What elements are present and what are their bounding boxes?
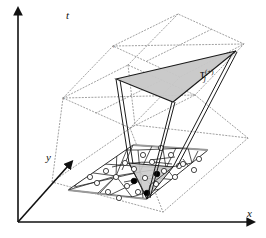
axis-label-t: t <box>66 10 69 21</box>
time-level-label-lower: t <box>63 96 64 101</box>
time-level-label-upper: t <box>113 44 114 49</box>
mesh-open-node <box>116 195 121 200</box>
mesh-open-node <box>161 168 166 173</box>
dotted-connector-5 <box>52 98 63 182</box>
tau-superscript: (+) <box>205 68 214 76</box>
mesh-open-node <box>172 174 177 179</box>
mesh-open-node <box>168 152 173 157</box>
dotted-connector-2 <box>128 14 178 65</box>
mesh-open-node <box>135 189 140 194</box>
mesh-open-node <box>105 189 110 194</box>
axis-y <box>18 166 68 222</box>
axis-label-y: y <box>46 152 51 163</box>
spacetime-prism-diagram <box>0 0 266 238</box>
figure-canvas: t y x τj(+) t t <box>0 0 266 238</box>
mesh-open-node <box>103 168 108 173</box>
axis-label-x: x <box>247 208 252 219</box>
mesh-open-node <box>196 156 201 161</box>
prism-edge-left <box>116 79 129 163</box>
mesh-filled-node <box>131 178 137 184</box>
tau-annotation: τj(+) <box>200 68 214 83</box>
mesh-open-node <box>131 166 136 171</box>
mesh-open-node <box>142 175 147 180</box>
mesh-open-node <box>149 159 154 164</box>
mesh-open-node <box>124 183 129 188</box>
dotted-guide-upper-b <box>147 29 212 61</box>
mesh-open-node <box>87 174 92 179</box>
mesh-open-node <box>94 180 99 185</box>
mesh-open-node <box>122 160 127 165</box>
dotted-connector-1 <box>63 46 113 98</box>
mesh-open-node <box>180 161 185 166</box>
mesh-open-node <box>191 167 196 172</box>
mesh-edge <box>86 157 96 172</box>
mesh-open-node <box>113 174 118 179</box>
mesh-open-node <box>140 152 145 157</box>
